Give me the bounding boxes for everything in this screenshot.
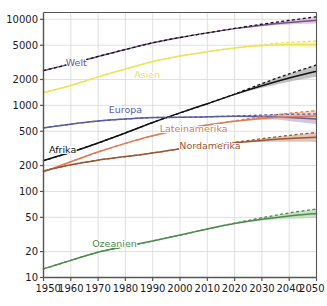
- chart-canvas: WeltAsienAfrikaEuropaLateinamerikaNordam…: [0, 0, 327, 306]
- series-label-europa: Europa: [109, 104, 142, 115]
- y-tick-label: 500: [19, 126, 38, 137]
- population-projection-chart: WeltAsienAfrikaEuropaLateinamerikaNordam…: [0, 0, 327, 306]
- y-tick-label: 50: [25, 212, 38, 223]
- x-tick-label: 1980: [113, 283, 138, 294]
- y-tick-label: 10: [25, 272, 38, 283]
- x-tick-label: 1990: [140, 283, 165, 294]
- series-label-afrika: Afrika: [49, 144, 76, 155]
- y-tick-label: 20: [25, 246, 38, 257]
- y-tick-label: 2000: [13, 74, 38, 85]
- series-label-lateinamerika: Lateinamerika: [160, 123, 228, 134]
- x-tick-label: 2010: [195, 283, 220, 294]
- y-tick-label: 5000: [13, 40, 38, 51]
- series-label-nordamerika: Nordamerika: [179, 140, 240, 151]
- y-tick-label: 100: [19, 186, 38, 197]
- series-label-welt: Welt: [66, 57, 87, 68]
- x-tick-label: 2000: [167, 283, 192, 294]
- y-tick-label: 10000: [6, 14, 38, 25]
- y-tick-label: 200: [19, 160, 38, 171]
- y-tick-label: 1000: [13, 100, 38, 111]
- series-label-asien: Asien: [134, 69, 160, 80]
- x-tick-label: 1960: [58, 283, 83, 294]
- x-axis-tick-labels: 1950196019701980199020002010202020302040…: [36, 283, 325, 294]
- x-tick-label: 1970: [85, 283, 110, 294]
- x-tick-label: 2020: [222, 283, 247, 294]
- series-label-ozeanien: Ozeanien: [92, 238, 137, 249]
- x-tick-label: 2050: [299, 283, 324, 294]
- x-tick-label: 2030: [249, 283, 274, 294]
